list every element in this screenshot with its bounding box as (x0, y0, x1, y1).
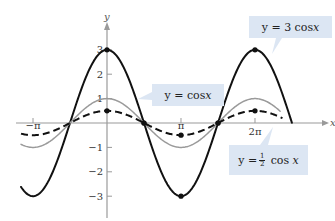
callout-3cos-pointer (272, 38, 282, 54)
callout-cos-text: y = cos (164, 89, 205, 102)
axes: yx321−1−2−3−ππ2π (16, 11, 335, 218)
key-point (215, 120, 220, 125)
key-point (252, 108, 257, 113)
key-point (178, 133, 183, 138)
callout-y-cos-x: y = cos x (152, 84, 224, 106)
y-axis-label: y (103, 11, 110, 22)
callout-half-mid: cos (267, 154, 292, 167)
key-point (178, 194, 183, 199)
fraction-denominator: 2 (260, 161, 264, 168)
fraction-one-half: 1 2 (259, 153, 265, 168)
x-axis-arrow-icon (322, 120, 329, 126)
callout-3cos-var: x (313, 21, 319, 34)
callout-cos-var: x (205, 89, 211, 102)
key-point (104, 47, 109, 52)
x-tick-label: 2π (249, 126, 262, 137)
callout-y-half-cos-x: y = 1 2 cos x (229, 145, 308, 175)
callout-cos-pointer (138, 92, 152, 100)
x-tick-label: π (178, 120, 185, 131)
y-tick-label: −2 (88, 166, 103, 177)
callout-half-pointer (260, 127, 273, 145)
x-tick-label: −π (26, 120, 41, 131)
key-point (252, 47, 257, 52)
fraction-numerator: 1 (260, 153, 264, 160)
y-axis-arrow-icon (104, 22, 110, 30)
y-tick-label: 2 (97, 69, 103, 80)
x-axis-label: x (330, 117, 335, 128)
y-tick-label: −3 (88, 191, 103, 202)
callout-3cos-text: y = 3 cos (262, 21, 313, 34)
callout-y-3cos-x: y = 3 cos x (249, 16, 332, 38)
callout-half-var: x (293, 154, 299, 167)
y-tick-label: −1 (88, 142, 103, 153)
key-point (104, 108, 109, 113)
key-point (141, 120, 146, 125)
callout-half-prefix: y = (238, 154, 257, 167)
